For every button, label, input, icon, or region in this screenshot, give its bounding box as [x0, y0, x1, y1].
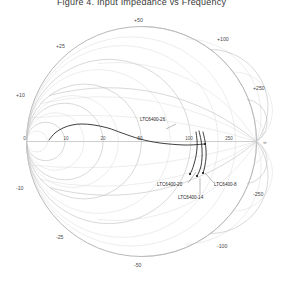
reactance-arc-m20 [40, 142, 257, 187]
trace-group [49, 124, 206, 177]
reactance-arc-m10 [28, 142, 257, 168]
leader-ltc6400-26 [166, 124, 176, 129]
smith-chart-canvas: 0 10 20 50 100 250 ∞ +10 +25 +50 +100 +2… [0, 0, 283, 283]
tick-x-m25: -25 [56, 234, 64, 240]
marker-ltc6400-14 [196, 175, 198, 177]
tick-x-p250: +250 [253, 85, 265, 91]
smith-chart-page: Figure 4. Input Impedance vs Frequency [0, 0, 283, 283]
trace-ltc6400-26 [49, 124, 205, 145]
tick-x-p50: +50 [134, 17, 143, 23]
tick-r-0: 0 [23, 136, 26, 141]
annotation-ltc6400-20: LTC6400-20 [157, 182, 183, 187]
tick-r-250: 250 [225, 136, 233, 141]
tick-x-p25: +25 [56, 43, 65, 49]
tick-x-m10: -10 [16, 185, 24, 191]
annotation-ltc6400-8: LTC6400-8 [214, 182, 237, 187]
marker-ltc6400-20 [189, 173, 191, 175]
tick-x-m250: -250 [253, 191, 263, 197]
annotation-ltc6400-26: LTC6400-26 [140, 117, 166, 122]
reactance-arc-m100 [211, 142, 268, 234]
tick-r-100: 100 [185, 136, 193, 141]
reactance-arc-m250 [247, 142, 267, 184]
reactance-arc-p100 [211, 50, 268, 142]
reactance-arc-m35 [98, 142, 257, 221]
reactance-arc-p250 [247, 99, 267, 141]
tick-r-10: 10 [63, 136, 69, 141]
reactance-arc-m25 [50, 142, 257, 196]
marker-ltc6400-8 [202, 172, 204, 174]
annotation-ltc6400-14: LTC6400-14 [178, 195, 204, 200]
tick-x-p10: +10 [16, 92, 25, 98]
reactance-arc-p35 [98, 63, 257, 142]
tick-x-m50: -50 [134, 262, 142, 268]
tick-r-infinity: ∞ [263, 140, 266, 145]
tick-r-20: 20 [100, 136, 106, 141]
trace-ltc6400-8 [203, 132, 206, 173]
tick-x-m100: -100 [217, 243, 227, 249]
tick-x-p100: +100 [217, 36, 229, 42]
reactance-arc-p25 [50, 88, 257, 142]
